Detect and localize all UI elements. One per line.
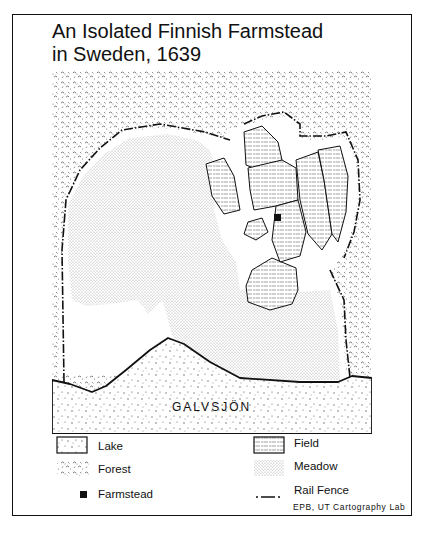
forest-swatch — [57, 460, 89, 476]
legend-label-lake: Lake — [98, 440, 123, 452]
legend-label-meadow: Meadow — [294, 460, 337, 472]
credit-line: EPB, UT Cartography Lab — [293, 502, 405, 512]
legend-label-rail-fence: Rail Fence — [294, 484, 349, 496]
legend-swatches — [0, 0, 424, 538]
legend-label-farmstead: Farmstead — [98, 488, 153, 500]
legend-label-field: Field — [294, 437, 319, 449]
meadow-swatch — [254, 460, 284, 476]
farmstead-square — [80, 491, 87, 498]
legend-label-forest: Forest — [98, 463, 131, 475]
lake-swatch — [57, 437, 87, 453]
field-swatch — [254, 437, 284, 453]
